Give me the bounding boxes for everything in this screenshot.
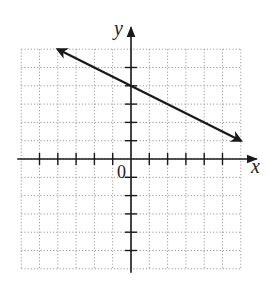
x-axis-label: x	[250, 155, 260, 177]
y-axis-label: y	[112, 17, 123, 40]
origin-label: 0	[117, 162, 126, 182]
axes	[17, 27, 257, 273]
coordinate-graph: x y 0	[0, 0, 268, 290]
plot-area: x y 0	[0, 0, 268, 290]
